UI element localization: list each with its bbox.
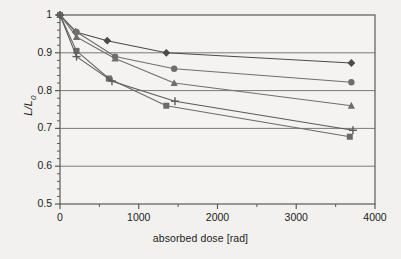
y-tick-label: 0.6: [18, 159, 52, 171]
marker-circle: [171, 65, 177, 71]
y-tick-label: 0.9: [18, 46, 52, 58]
x-tick-label: 3000: [276, 211, 316, 223]
marker-circle: [348, 79, 354, 85]
x-tick-label: 0: [40, 211, 80, 223]
x-tick-label: 2000: [198, 211, 238, 223]
marker-square: [163, 103, 169, 109]
y-tick-label: 1: [18, 8, 52, 20]
y-tick-label: 0.7: [18, 121, 52, 133]
marker-square: [347, 134, 353, 140]
y-tick-label: 0.8: [18, 84, 52, 96]
x-tick-label: 1000: [119, 211, 159, 223]
y-axis-title-sub: 0: [29, 96, 38, 101]
x-tick-label: 4000: [355, 211, 395, 223]
y-tick-label: 0.5: [18, 197, 52, 209]
y-axis-title-main: L/L: [22, 100, 34, 116]
x-axis-title: absorbed dose [rad]: [0, 232, 401, 244]
chart-figure: absorbed dose [rad] L/L0 0.50.60.70.80.9…: [0, 0, 401, 259]
